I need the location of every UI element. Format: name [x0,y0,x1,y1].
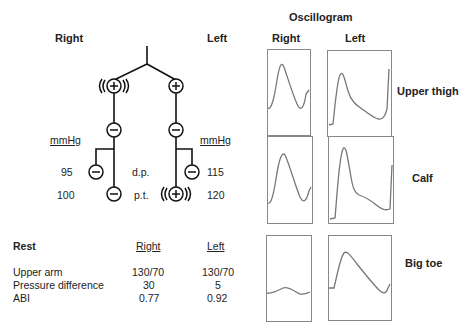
row-value-left: 130/70 [202,266,234,278]
waveform [329,137,393,223]
unit-label-left: mmHg [200,134,231,146]
row-label-calf: Calf [412,172,433,184]
column-header-left: Left [207,240,225,252]
pt-value-right: 100 [57,189,75,201]
minus-node-icon [169,123,183,137]
oscillogram-right-big-toe [266,235,312,322]
pt-label: p.t. [134,189,149,201]
waveform [329,236,391,320]
plus-node-icon [169,79,183,93]
dp-value-left: 115 [207,166,224,178]
column-header-right: Right [136,240,161,252]
oscillogram-right-calf [267,136,313,224]
row-value-right: 130/70 [132,266,164,278]
pt-value-left: 120 [207,189,225,201]
oscillogram-right-upper-thigh [267,49,311,136]
dp-value-right: 95 [61,166,73,178]
waveform [328,51,391,136]
waveform [268,137,312,223]
oscillogram-left-big-toe [328,235,392,321]
row-value-right: 30 [143,279,155,291]
waveform [268,50,310,135]
row-value-right: 0.77 [139,292,159,304]
minus-node-icon [107,187,121,201]
row-label: Pressure difference [13,279,104,291]
oscillogram-left-upper-thigh [327,50,392,137]
row-value-left: 0.92 [207,292,227,304]
minus-node-icon [89,165,103,179]
table-title: Rest [13,240,36,252]
dp-label: d.p. [132,166,150,178]
oscillogram-left-calf [328,136,394,224]
waveform [267,236,311,321]
row-label-upper-thigh: Upper thigh [397,85,459,97]
row-label: Upper arm [13,266,63,278]
plus-node-strong-icon [100,79,129,93]
plus-node-strong-icon [162,187,191,201]
minus-node-icon [107,123,121,137]
row-label: ABI [13,292,30,304]
row-value-left: 5 [215,279,221,291]
row-label-big-toe: Big toe [405,257,442,269]
unit-label-right: mmHg [50,134,81,146]
minus-node-icon [185,165,199,179]
